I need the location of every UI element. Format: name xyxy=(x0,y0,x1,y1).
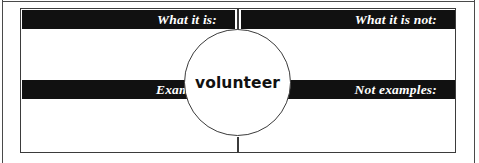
page-border-top xyxy=(2,1,475,2)
center-term-circle: volunteer xyxy=(184,29,291,136)
frayer-model-organizer: What it is: What it is not: Examples: No… xyxy=(20,8,456,153)
label-what-it-is-not: What it is not: xyxy=(355,13,437,27)
label-what-it-is: What it is: xyxy=(157,13,217,27)
band-what-it-is-not: What it is not: xyxy=(241,10,455,29)
vertical-divider-lower xyxy=(237,137,239,153)
frayer-model-page: What it is: What it is not: Examples: No… xyxy=(0,0,479,163)
page-border-left xyxy=(2,0,3,163)
vertical-divider-upper xyxy=(237,9,239,31)
label-not-examples: Not examples: xyxy=(355,83,437,97)
center-term-text: volunteer xyxy=(195,74,280,92)
band-what-it-is: What it is: xyxy=(22,10,235,29)
page-border-right xyxy=(474,0,475,163)
